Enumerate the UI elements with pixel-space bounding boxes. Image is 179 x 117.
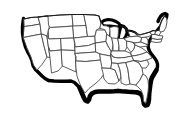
state-wyoming bbox=[49, 26, 75, 39]
state-south-dakota bbox=[73, 26, 88, 39]
state-connecticut-rhode-island bbox=[151, 39, 162, 43]
state-iowa bbox=[95, 30, 107, 43]
central-gulf-coast bbox=[118, 91, 138, 93]
us-outline-map-figure bbox=[0, 0, 179, 117]
us-map-svg bbox=[0, 0, 179, 117]
state-arkansas bbox=[100, 54, 112, 69]
state-colorado bbox=[61, 38, 75, 51]
